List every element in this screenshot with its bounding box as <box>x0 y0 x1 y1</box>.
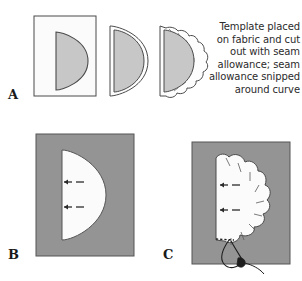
instructional-figure: Template placed on fabric and cut out wi… <box>0 0 302 281</box>
panel-a-step1-template-on-paper <box>34 16 96 96</box>
caption-line-4: allowance; seam <box>218 59 300 70</box>
panel-a-step2-cut-with-seam-allowance <box>110 26 148 96</box>
caption-line-3: out with seam <box>230 46 300 57</box>
panel-label-b: B <box>8 248 19 261</box>
panel-b-template-on-fabric <box>36 134 134 256</box>
panel-label-a: A <box>8 88 18 101</box>
caption-line-6: around curve <box>235 84 300 95</box>
caption-line-1: Template placed <box>219 21 300 32</box>
caption-line-5: allowance snipped <box>209 71 300 82</box>
panel-label-c: C <box>163 248 173 261</box>
caption-line-2: on fabric and cut <box>217 34 300 45</box>
panel-c-snipped-and-basted <box>192 142 290 274</box>
figure-caption: Template placed on fabric and cut out wi… <box>196 21 300 97</box>
